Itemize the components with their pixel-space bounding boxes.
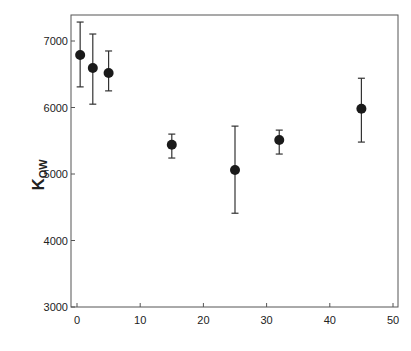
data-point-group [274, 130, 284, 154]
x-tick-label: 20 [197, 314, 209, 326]
data-point-group [75, 22, 85, 87]
x-tick-label: 40 [324, 314, 336, 326]
x-tick-label: 10 [134, 314, 146, 326]
data-series [75, 22, 366, 213]
data-point-group [167, 134, 177, 158]
chart: 01020304050 30004000500060007000 KOW [0, 0, 411, 351]
data-point [75, 50, 85, 60]
y-axis-label-main: K [29, 178, 48, 191]
x-tick-label: 30 [260, 314, 272, 326]
data-point [274, 135, 284, 145]
y-tick-label: 4000 [44, 235, 68, 247]
y-tick-label: 7000 [44, 35, 68, 47]
data-point [230, 165, 240, 175]
y-tick-label: 6000 [44, 102, 68, 114]
y-axis-label: KOW [29, 159, 49, 191]
data-point [88, 63, 98, 73]
data-point [104, 68, 114, 78]
data-point [356, 104, 366, 114]
x-axis: 01020304050 [74, 303, 399, 326]
data-point-group [88, 34, 98, 104]
y-tick-label: 3000 [44, 301, 68, 313]
x-tick-label: 0 [74, 314, 80, 326]
data-point-group [104, 51, 114, 91]
y-axis-label-subscript: OW [37, 159, 49, 179]
data-point [167, 140, 177, 150]
data-point-group [230, 126, 240, 213]
x-tick-label: 50 [387, 314, 399, 326]
data-point-group [356, 78, 366, 142]
